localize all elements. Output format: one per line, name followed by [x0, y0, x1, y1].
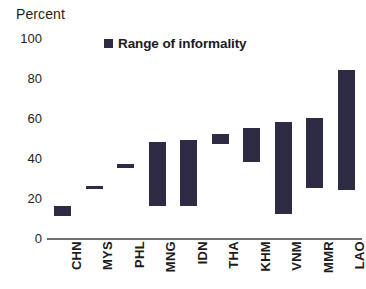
x-axis-baseline — [47, 238, 362, 240]
x-tick-label: VNM — [289, 241, 304, 287]
y-tick-label: 60 — [8, 111, 42, 126]
range-bar — [149, 142, 166, 206]
range-bar — [243, 128, 260, 162]
x-tick-label: IDN — [195, 241, 210, 287]
range-bar — [212, 134, 229, 144]
range-bar — [180, 140, 197, 206]
informality-range-chart: Percent Range of informality 02040608010… — [0, 0, 366, 289]
x-tick-label: KHM — [258, 241, 273, 287]
x-tick-label: MMR — [321, 241, 336, 287]
range-bar — [275, 122, 292, 214]
range-bar — [86, 186, 103, 189]
y-tick-label: 40 — [8, 151, 42, 166]
range-bar — [338, 70, 355, 190]
y-tick-label: 0 — [8, 231, 42, 246]
x-tick-label: MYS — [100, 241, 115, 287]
y-axis: 020406080100 — [4, 0, 42, 289]
x-tick-label: THA — [226, 241, 241, 287]
y-tick-label: 100 — [8, 31, 42, 46]
plot-area — [47, 38, 362, 238]
x-tick-label: PHL — [132, 241, 147, 287]
y-tick-label: 80 — [8, 71, 42, 86]
range-bar — [54, 206, 71, 216]
x-axis-labels: CHNMYSPHLMNGIDNTHAKHMVNMMMRLAO — [47, 241, 362, 289]
y-tick-label: 20 — [8, 191, 42, 206]
x-tick-label: CHN — [69, 241, 84, 287]
range-bar — [117, 164, 134, 168]
x-tick-label: LAO — [352, 241, 366, 287]
range-bar — [306, 118, 323, 188]
x-tick-label: MNG — [163, 241, 178, 287]
